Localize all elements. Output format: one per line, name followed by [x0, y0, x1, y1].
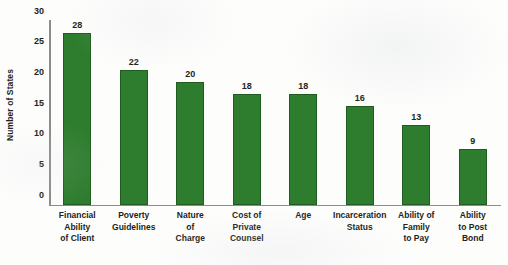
bar-group[interactable]: 9 — [459, 14, 487, 205]
bar-group[interactable]: 18 — [233, 14, 261, 205]
bar-group[interactable]: 20 — [176, 14, 204, 205]
y-axis-title-text: Number of States — [5, 69, 15, 141]
bar-value-label: 22 — [129, 57, 139, 67]
x-category-label-line: Status — [332, 222, 389, 234]
x-category-label: FinancialAbilityof Client — [49, 210, 106, 245]
x-category-label: IncarcerationStatus — [332, 210, 389, 233]
x-category-label-line: to Pay — [388, 233, 445, 245]
bar-value-label: 20 — [185, 69, 195, 79]
bar-value-label: 18 — [242, 81, 252, 91]
plot-area: 051015202530 282220181816139 — [49, 14, 501, 206]
bar[interactable] — [402, 125, 430, 205]
bar-group[interactable]: 28 — [63, 14, 91, 205]
x-category-label-line: Guidelines — [106, 222, 163, 234]
x-category-label-line: Nature — [162, 210, 219, 222]
x-category-label-line: Cost of — [219, 210, 276, 222]
bar[interactable] — [120, 70, 148, 205]
bar-group[interactable]: 13 — [402, 14, 430, 205]
x-category-label-line: Ability of — [388, 210, 445, 222]
bar-group[interactable]: 18 — [289, 14, 317, 205]
x-category-label: Ability ofFamilyto Pay — [388, 210, 445, 245]
x-category-label: PovertyGuidelines — [106, 210, 163, 233]
x-category-label-line: Ability — [445, 210, 502, 222]
x-category-label-line: Ability — [49, 222, 106, 234]
y-tick-20: 20 — [34, 67, 44, 77]
bar[interactable] — [63, 33, 91, 205]
bar-value-label: 16 — [355, 93, 365, 103]
x-category-label-line: of Client — [49, 233, 106, 245]
bar[interactable] — [289, 94, 317, 204]
bar-chart-figure: Number of States 051015202530 2822201818… — [0, 0, 508, 265]
y-tick-15: 15 — [34, 98, 44, 108]
bar[interactable] — [346, 106, 374, 204]
x-category-label: NatureofCharge — [162, 210, 219, 245]
x-category-label-line: Incarceration — [332, 210, 389, 222]
bar-value-label: 9 — [470, 136, 475, 146]
bar-value-label: 18 — [298, 81, 308, 91]
x-category-label-line: Counsel — [219, 233, 276, 245]
y-tick-0: 0 — [39, 190, 44, 200]
y-axis-title: Number of States — [0, 0, 20, 210]
x-category-label: Cost ofPrivateCounsel — [219, 210, 276, 245]
bar-group[interactable]: 16 — [346, 14, 374, 205]
bar-group[interactable]: 22 — [120, 14, 148, 205]
x-category-label: Age — [275, 210, 332, 222]
y-tick-10: 10 — [34, 128, 44, 138]
x-category-label-line: Bond — [445, 233, 502, 245]
x-axis-category-labels: FinancialAbilityof ClientPovertyGuidelin… — [49, 210, 501, 262]
x-category-label-line: to Post — [445, 222, 502, 234]
y-tick-5: 5 — [39, 159, 44, 169]
bar-value-label: 13 — [411, 112, 421, 122]
x-category-label-line: of — [162, 222, 219, 234]
x-axis-line — [49, 205, 501, 207]
x-category-label-line: Poverty — [106, 210, 163, 222]
x-category-label-line: Family — [388, 222, 445, 234]
x-category-label: Abilityto PostBond — [445, 210, 502, 245]
bar-value-label: 28 — [72, 20, 82, 30]
x-category-label-line: Financial — [49, 210, 106, 222]
bar[interactable] — [233, 94, 261, 204]
y-tick-30: 30 — [34, 6, 44, 16]
bars-layer: 282220181816139 — [49, 14, 501, 205]
x-category-label-line: Charge — [162, 233, 219, 245]
bar[interactable] — [176, 82, 204, 205]
y-tick-25: 25 — [34, 36, 44, 46]
x-category-label-line: Private — [219, 222, 276, 234]
bar[interactable] — [459, 149, 487, 204]
x-category-label-line: Age — [275, 210, 332, 222]
